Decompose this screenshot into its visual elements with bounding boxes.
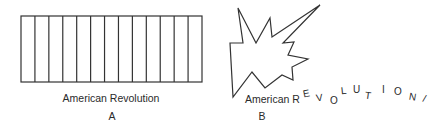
arc-letter: O — [394, 86, 402, 97]
arc-letter: L — [340, 85, 347, 97]
arc-letter: E — [302, 87, 311, 99]
arc-letter: I — [382, 84, 385, 95]
figure-a-label: A — [108, 110, 115, 122]
diagram-canvas: American Revolution A American R E V O L… — [0, 0, 447, 127]
arc-letter: O — [330, 95, 338, 106]
figure-a-caption: American Revolution — [63, 92, 160, 104]
figure-a-striped-rectangle — [21, 16, 202, 82]
arc-letter: N — [408, 91, 417, 103]
figure-b-explosion-shape — [230, 5, 320, 97]
arc-letter: V — [315, 92, 323, 104]
arc-letter: / — [422, 93, 428, 104]
figure-b-label: B — [258, 110, 265, 122]
arc-letter: U — [353, 84, 360, 95]
arc-letter: T — [364, 90, 372, 102]
figure-b-caption-prefix: American R — [245, 93, 300, 105]
figure-b-scattered-letters: E V O L U T I O N / — [302, 84, 428, 106]
